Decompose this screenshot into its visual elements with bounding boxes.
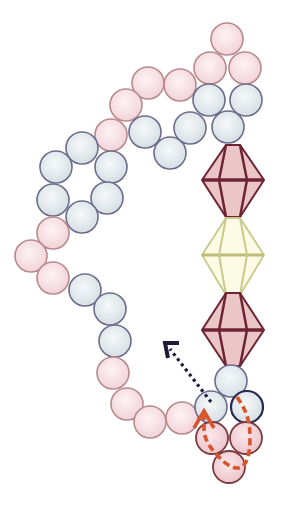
- round-bead-blue: [37, 184, 69, 216]
- bicone-bead-yellow: [202, 218, 264, 295]
- round-bead-pink: [164, 69, 196, 101]
- round-bead-blue: [40, 151, 72, 183]
- round-bead-blue: [212, 111, 244, 143]
- round-bead-pink: [166, 402, 198, 434]
- round-bead-pink: [37, 262, 69, 294]
- round-bead-blue: [129, 116, 161, 148]
- round-bead-pink: [110, 89, 142, 121]
- round-bead-pink: [229, 52, 261, 84]
- round-bead-blue: [94, 293, 126, 325]
- bicone-bead-rose-top: [202, 145, 264, 217]
- round-bead-pink: [97, 357, 129, 389]
- round-bead-pink: [211, 23, 243, 55]
- round-bead-blue: [154, 137, 186, 169]
- round-bead-blue: [230, 84, 262, 116]
- bicone-bead-rose-bottom: [202, 293, 264, 366]
- round-bead-blue: [95, 151, 127, 183]
- round-bead-blue: [99, 325, 131, 357]
- round-bead-pink-dark: [230, 422, 262, 454]
- round-bead-blue: [193, 84, 225, 116]
- round-bead-pink: [194, 52, 226, 84]
- round-bead-pink: [134, 406, 166, 438]
- beading-diagram: [0, 0, 289, 506]
- bicone-group: [202, 145, 264, 366]
- round-bead-blue: [66, 201, 98, 233]
- round-bead-pink: [95, 119, 127, 151]
